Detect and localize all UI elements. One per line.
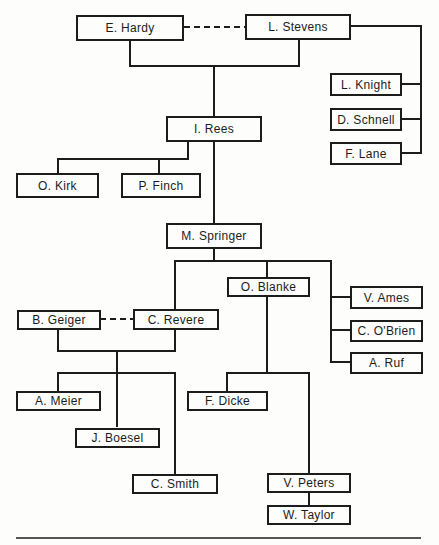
node-l-knight: L. Knight — [330, 73, 402, 96]
node-f-dicke: F. Dicke — [187, 391, 268, 411]
node-a-ruf: A. Ruf — [350, 352, 423, 374]
node-a-meier: A. Meier — [16, 391, 101, 411]
node-v-ames: V. Ames — [350, 286, 423, 309]
node-c-obrien: C. O'Brien — [350, 320, 423, 342]
org-chart: E. Hardy L. Stevens L. Knight D. Schnell… — [0, 0, 439, 545]
node-o-kirk: O. Kirk — [16, 173, 99, 198]
node-d-schnell: D. Schnell — [330, 108, 402, 131]
node-b-geiger: B. Geiger — [17, 310, 101, 330]
node-c-revere: C. Revere — [133, 309, 219, 330]
node-j-boesel: J. Boesel — [75, 428, 160, 448]
node-m-springer: M. Springer — [166, 223, 262, 249]
node-w-taylor: W. Taylor — [267, 505, 351, 525]
node-v-peters: V. Peters — [267, 473, 351, 493]
node-o-blanke: O. Blanke — [227, 277, 310, 297]
node-p-finch: P. Finch — [121, 173, 201, 198]
node-f-lane: F. Lane — [330, 142, 402, 165]
node-l-stevens: L. Stevens — [245, 14, 351, 40]
node-c-smith: C. Smith — [132, 474, 218, 494]
node-i-rees: I. Rees — [166, 116, 262, 142]
node-e-hardy: E. Hardy — [76, 15, 184, 41]
